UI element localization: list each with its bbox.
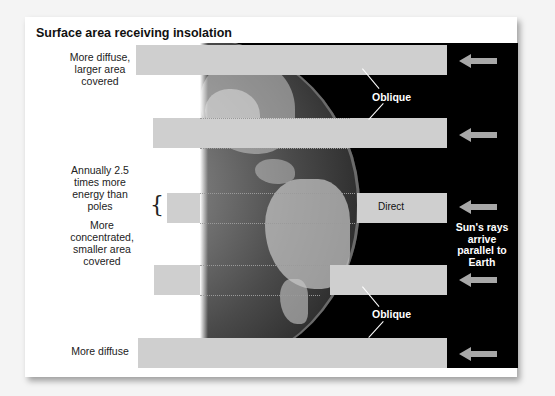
ray-band-2 xyxy=(153,118,355,148)
earth-globe xyxy=(200,43,360,368)
ray-band-2-right xyxy=(355,118,447,148)
oblique-label-bottom: Oblique xyxy=(372,308,411,320)
direct-label: Direct xyxy=(378,201,404,212)
brace-icon: { xyxy=(150,192,164,217)
sun-ray-arrow-icon xyxy=(459,273,499,287)
globe-edge-fade xyxy=(200,43,208,368)
label-more-concentrated: More concentrated, smaller area covered xyxy=(62,219,142,267)
ray-band-5 xyxy=(138,338,447,368)
sun-ray-arrow-icon xyxy=(459,54,499,68)
oblique-label-top: Oblique xyxy=(372,91,411,103)
ray-band-1 xyxy=(136,45,447,75)
dotted-line xyxy=(200,148,348,149)
ray-band-4 xyxy=(154,265,200,295)
sun-ray-arrow-icon xyxy=(459,200,499,214)
south-america-tip xyxy=(280,279,308,324)
label-more-diffuse-larger: More diffuse, larger area covered xyxy=(62,51,138,87)
sun-ray-arrow-icon xyxy=(459,347,499,361)
label-annual-energy: Annually 2.5 times more energy than pole… xyxy=(62,164,138,212)
figure-title: Surface area receiving insolation xyxy=(36,26,232,40)
ray-band-4-right xyxy=(330,265,447,295)
ray-band-3 xyxy=(167,193,200,223)
sun-ray-arrow-icon xyxy=(459,128,499,142)
label-more-diffuse-bottom: More diffuse xyxy=(62,345,138,357)
dotted-line xyxy=(200,118,350,119)
dotted-line xyxy=(200,193,355,194)
dotted-line xyxy=(200,265,330,266)
dotted-line xyxy=(200,223,355,224)
sun-rays-caption: Sun's rays arrive parallel to Earth xyxy=(452,222,512,268)
dotted-line xyxy=(200,295,320,296)
